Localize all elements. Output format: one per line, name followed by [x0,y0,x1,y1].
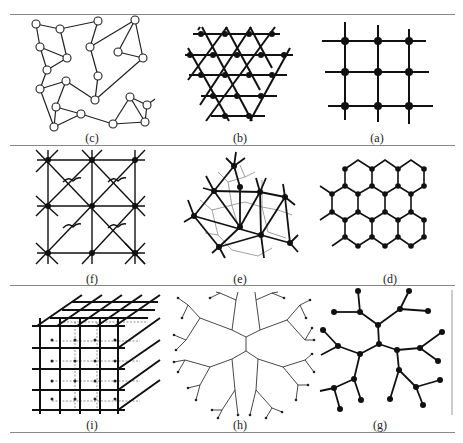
panel-c-nodes [32,16,151,131]
panel-h-graph [174,292,314,418]
label-c: (c) [72,131,112,146]
network-diagrams [0,0,463,443]
panel-g-graph [320,291,442,409]
label-d: (d) [370,272,410,287]
label-i: (i) [72,418,112,433]
panel-d-nodes [329,166,427,249]
label-g: (g) [360,418,400,433]
panel-g-nodes [320,288,445,412]
panel-d-graph [320,160,424,246]
panel-i-front [32,295,160,414]
panel-h-leaves [173,297,316,420]
label-e: (e) [220,272,260,287]
label-h: (h) [220,418,260,433]
panel-e-dual [200,165,292,256]
label-f: (f) [72,272,112,287]
label-a: (a) [357,131,397,146]
label-b: (b) [220,131,260,146]
